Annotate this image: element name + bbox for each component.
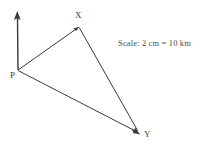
segment-p-x xyxy=(18,29,77,70)
vertex-label-x: X xyxy=(75,11,82,20)
bearing-diagram xyxy=(0,0,208,148)
diagram-canvas: P X Y Scale: 2 cm = 10 km xyxy=(0,0,208,148)
segment-p-y xyxy=(18,71,137,132)
north-arrow-shaft xyxy=(18,17,19,70)
scale-note: Scale: 2 cm = 10 km xyxy=(118,39,191,48)
vertex-label-p: P xyxy=(10,71,15,80)
vertex-label-y: Y xyxy=(144,130,151,139)
